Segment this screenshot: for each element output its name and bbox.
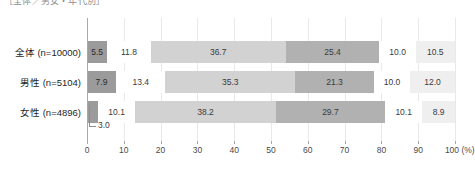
tick-label-70: 70 (340, 145, 349, 155)
bar-segment: 25.4 (286, 41, 379, 63)
tick-label-90: 90 (413, 145, 422, 155)
bar-segment: 7.9 (87, 71, 116, 93)
bar-segment: 13.4 (116, 71, 165, 93)
tick-mark-100 (455, 141, 456, 144)
bar-segment: 12.0 (410, 71, 454, 93)
row-label-female: 女性 (n=4896) (0, 105, 81, 119)
gridline-100 (455, 18, 456, 143)
bar-segment-value: 11.8 (121, 48, 137, 57)
tick-label-0: 0 (85, 145, 90, 155)
bar-segment: 8.9 (422, 101, 455, 123)
tick-mark-80 (381, 141, 382, 144)
bar-segment-value: 10.5 (427, 48, 444, 57)
bar-segment: 38.2 (135, 101, 276, 123)
bar-segment-value: 25.4 (324, 48, 341, 57)
tick-mark-40 (234, 141, 235, 144)
tick-label-20: 20 (156, 145, 165, 155)
bar-segment: 21.3 (295, 71, 373, 93)
y-axis-line (87, 18, 88, 143)
tick-mark-10 (124, 141, 125, 144)
tick-mark-50 (271, 141, 272, 144)
callout-leader-vertical (89, 105, 90, 127)
tick-label-50: 50 (266, 145, 275, 155)
bar-row: 5.511.836.725.410.010.5 (87, 41, 455, 63)
bar-segment-value: 21.3 (326, 78, 343, 87)
x-axis-ticks: 0102030405060708090100 (%) (87, 145, 455, 167)
callout-3-0: 3.0 (89, 105, 129, 137)
bar-row: 10.138.229.710.18.9 (87, 101, 455, 123)
bar-segment-value: 36.7 (210, 48, 227, 57)
bar-segment: 35.3 (165, 71, 295, 93)
tick-label-10: 10 (119, 145, 128, 155)
bar-segment-value: 5.5 (91, 48, 103, 57)
callout-value: 3.0 (98, 120, 110, 130)
bar-segment-value: 12.0 (424, 78, 441, 87)
tick-mark-20 (161, 141, 162, 144)
plot-area: 5.511.836.725.410.010.57.913.435.321.310… (87, 18, 455, 143)
bar-segment: 5.5 (87, 41, 107, 63)
tick-mark-60 (308, 141, 309, 144)
bar-segment: 10.1 (385, 101, 422, 123)
tick-mark-90 (418, 141, 419, 144)
bar-segment: 11.8 (107, 41, 150, 63)
row-label-male: 男性 (n=5104) (0, 75, 81, 89)
bar-segment-value: 8.9 (433, 108, 445, 117)
bar-row: 7.913.435.321.310.012.0 (87, 71, 455, 93)
bar-segment-value: 10.0 (389, 48, 406, 57)
callout-leader-horizontal (89, 126, 96, 127)
tick-label-40: 40 (229, 145, 238, 155)
bar-segment-value: 10.0 (384, 78, 401, 87)
bar-segment-value: 10.1 (395, 108, 412, 117)
row-label-total: 全体 (n=10000) (0, 45, 81, 59)
bar-segment: 10.5 (416, 41, 455, 63)
tick-mark-0 (87, 141, 88, 144)
bar-segment-value: 29.7 (322, 108, 339, 117)
tick-label-100: 100 (%) (445, 145, 475, 155)
tick-label-80: 80 (377, 145, 386, 155)
bar-segment-value: 38.2 (197, 108, 214, 117)
bar-segment: 29.7 (276, 101, 385, 123)
bar-segment-value: 13.4 (132, 78, 149, 87)
bar-segment-value: 7.9 (96, 78, 108, 87)
tick-mark-30 (197, 141, 198, 144)
tick-mark-70 (345, 141, 346, 144)
tick-label-60: 60 (303, 145, 312, 155)
bar-segment: 36.7 (151, 41, 286, 63)
bar-segment: 10.0 (379, 41, 416, 63)
tick-label-30: 30 (193, 145, 202, 155)
bar-segment-value: 35.3 (222, 78, 239, 87)
bar-segment: 10.0 (374, 71, 411, 93)
